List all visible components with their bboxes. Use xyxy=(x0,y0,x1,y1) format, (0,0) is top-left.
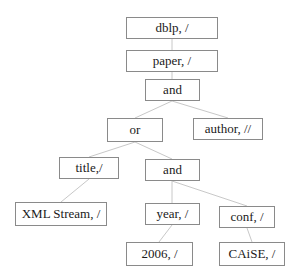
node-2006: 2006, / xyxy=(126,242,193,266)
node-label: and xyxy=(163,162,182,178)
node-label: conf, / xyxy=(230,209,263,225)
node-label: paper, / xyxy=(153,53,191,69)
node-and-root: and xyxy=(145,79,200,101)
tree-edge xyxy=(135,101,172,118)
node-label: dblp, / xyxy=(155,20,188,36)
node-label: or xyxy=(130,122,141,138)
node-caise: CAiSE, / xyxy=(219,242,285,266)
tree-edge xyxy=(61,179,89,202)
node-label: title,/ xyxy=(75,160,102,176)
node-label: 2006, / xyxy=(141,246,177,262)
node-label: XML Stream, / xyxy=(22,206,101,222)
node-label: and xyxy=(163,82,182,98)
node-dblp: dblp, / xyxy=(126,17,218,39)
tree-edge xyxy=(89,142,135,157)
node-label: CAiSE, / xyxy=(229,246,276,262)
node-and-inner: and xyxy=(145,159,200,181)
node-conf: conf, / xyxy=(219,206,275,228)
tree-edge xyxy=(135,142,172,159)
tree-edge xyxy=(172,101,228,118)
node-label: year, / xyxy=(157,206,189,222)
node-xml-stream: XML Stream, / xyxy=(15,202,107,226)
node-paper: paper, / xyxy=(126,50,218,72)
node-author: author, // xyxy=(193,118,263,140)
tree-edge xyxy=(159,225,172,242)
node-or: or xyxy=(107,118,163,142)
node-label: author, // xyxy=(205,121,251,137)
tree-edge xyxy=(247,228,252,242)
node-title: title,/ xyxy=(59,157,119,179)
node-year: year, / xyxy=(145,203,200,225)
